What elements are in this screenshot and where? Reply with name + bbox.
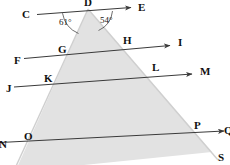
point-label-F: F	[14, 55, 21, 66]
point-label-J: J	[6, 83, 12, 94]
point-label-O: O	[24, 131, 33, 142]
point-label-K: K	[44, 73, 53, 84]
shaded-triangle-region	[15, 9, 212, 165]
point-label-S: S	[218, 152, 224, 163]
point-label-C: C	[22, 9, 30, 20]
angle-label-right: 54°	[100, 16, 113, 25]
angle-label-left: 61°	[59, 18, 72, 27]
point-label-Q: Q	[224, 125, 230, 136]
point-label-I: I	[178, 37, 182, 48]
point-label-G: G	[58, 44, 67, 55]
point-label-H: H	[123, 35, 132, 46]
point-label-N: N	[0, 139, 7, 150]
geometry-diagram	[0, 0, 230, 165]
point-label-D: D	[84, 0, 92, 8]
point-label-E: E	[138, 2, 145, 13]
line-CE	[37, 8, 131, 15]
point-label-M: M	[200, 66, 210, 77]
point-label-P: P	[194, 120, 201, 131]
point-label-L: L	[152, 62, 159, 73]
